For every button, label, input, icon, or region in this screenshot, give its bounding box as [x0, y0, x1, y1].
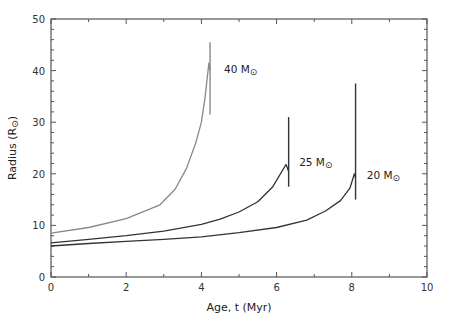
series-lines	[51, 42, 356, 246]
y-tick-label: 20	[32, 169, 45, 180]
axis-tick-labels: 024681001020304050	[32, 14, 433, 293]
x-tick-label: 4	[198, 282, 204, 293]
y-tick-label: 0	[39, 272, 45, 283]
axis-ticks	[51, 19, 427, 277]
series-line-2	[51, 174, 356, 246]
x-tick-label: 8	[349, 282, 355, 293]
series-label-2: 20 M⊙	[367, 169, 400, 183]
y-tick-label: 50	[32, 14, 45, 25]
y-axis-label-group: Radius (R⊙)	[6, 116, 20, 180]
y-axis-label: Radius (R⊙)	[6, 116, 20, 180]
series-line-0	[51, 63, 210, 233]
series-label-0: 40 M⊙	[224, 63, 257, 77]
y-tick-label: 30	[32, 117, 45, 128]
x-tick-label: 2	[123, 282, 129, 293]
plot-frame	[51, 19, 427, 277]
y-tick-label: 40	[32, 66, 45, 77]
x-axis-label: Age, t (Myr)	[206, 301, 271, 314]
x-tick-label: 6	[273, 282, 279, 293]
series-label-1: 25 M⊙	[299, 156, 332, 170]
series-labels: 40 M⊙25 M⊙20 M⊙	[224, 63, 400, 183]
plot-border	[51, 19, 427, 277]
y-axis-label-text: Radius (R	[6, 127, 19, 180]
x-tick-label: 0	[48, 282, 54, 293]
x-tick-label: 10	[421, 282, 434, 293]
y-tick-label: 10	[32, 220, 45, 231]
radius-vs-age-chart: 024681001020304050 40 M⊙25 M⊙20 M⊙ Age, …	[0, 0, 451, 322]
